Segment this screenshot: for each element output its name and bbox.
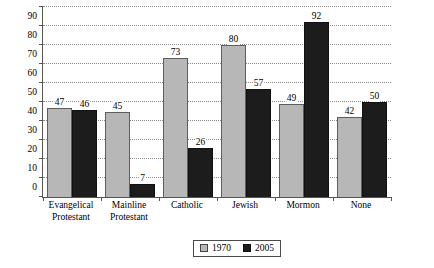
- bar-value-label: 47: [54, 96, 66, 108]
- bar-1970-evangelical-protestant: 47: [47, 108, 72, 197]
- x-axis-label-mainline-protestant: MainlineProtestant: [100, 200, 158, 223]
- bar-2005-evangelical-protestant: 46: [72, 110, 97, 197]
- legend-item-1970: 1970: [200, 242, 231, 254]
- x-axis-labels: EvangelicalProtestantMainlineProtestantC…: [42, 200, 390, 223]
- bar-value-label: 46: [79, 98, 91, 110]
- bar-1970-mormon: 49: [279, 104, 304, 197]
- y-axis-tick-label: 100: [23, 0, 37, 2]
- legend-label-1970: 1970: [212, 242, 231, 254]
- bar-value-label: 57: [253, 77, 265, 89]
- bar-1970-jewish: 80: [221, 45, 246, 197]
- bar-value-label: 92: [311, 10, 323, 22]
- y-axis-tick-label: 90: [28, 11, 38, 21]
- bar-2005-mainline-protestant: 7: [130, 184, 155, 197]
- legend-item-2005: 2005: [243, 242, 274, 254]
- y-axis-tick-label: 30: [28, 125, 38, 135]
- bar-group: 4992: [275, 7, 333, 197]
- bar-value-label: 7: [139, 172, 146, 184]
- x-axis-label-mormon: Mormon: [274, 200, 332, 223]
- x-axis-label-jewish: Jewish: [216, 200, 274, 223]
- x-axis-label-evangelical-protestant: EvangelicalProtestant: [42, 200, 100, 223]
- bar-2005-none: 50: [362, 102, 387, 197]
- chart-legend: 1970 2005: [193, 240, 281, 257]
- y-axis-tick-label: 50: [28, 87, 38, 97]
- bar-group: 8057: [217, 7, 275, 197]
- y-axis-tick-label: 10: [28, 163, 38, 173]
- legend-swatch-2005-icon: [243, 244, 251, 252]
- bar-2005-catholic: 26: [188, 148, 213, 197]
- x-axis-tick-end: [391, 197, 392, 201]
- y-axis-tick-label: 40: [28, 106, 38, 116]
- legend-label-2005: 2005: [255, 242, 274, 254]
- bar-1970-catholic: 73: [163, 58, 188, 197]
- y-axis-tick-label: 70: [28, 49, 38, 59]
- bar-value-label: 50: [369, 90, 381, 102]
- bar-value-label: 49: [286, 92, 298, 104]
- bar-value-label: 42: [344, 105, 356, 117]
- y-axis-tick-label: 0: [32, 182, 37, 192]
- x-axis-label-catholic: Catholic: [158, 200, 216, 223]
- y-axis-tick-label: 20: [28, 144, 38, 154]
- bar-1970-mainline-protestant: 45: [105, 112, 130, 198]
- bar-groups: 47464577326805749924250: [43, 7, 391, 197]
- bar-value-label: 73: [170, 46, 182, 58]
- y-axis-tick-label: 80: [28, 30, 38, 40]
- bar-group: 457: [101, 7, 159, 197]
- bar-2005-jewish: 57: [246, 89, 271, 197]
- bar-value-label: 26: [195, 136, 207, 148]
- legend-swatch-1970-icon: [200, 244, 208, 252]
- bar-value-label: 80: [228, 33, 240, 45]
- y-axis-tick-label: 60: [28, 68, 38, 78]
- chart-figure: Percent 0102030405060708090100 474645773…: [0, 0, 434, 268]
- bar-2005-mormon: 92: [304, 22, 329, 197]
- bar-group: 4250: [333, 7, 391, 197]
- bar-group: 7326: [159, 7, 217, 197]
- bar-value-label: 45: [112, 100, 124, 112]
- bar-1970-none: 42: [337, 117, 362, 197]
- plot-area: 0102030405060708090100 47464577326805749…: [42, 7, 391, 198]
- bar-group: 4746: [43, 7, 101, 197]
- x-axis-label-none: None: [332, 200, 390, 223]
